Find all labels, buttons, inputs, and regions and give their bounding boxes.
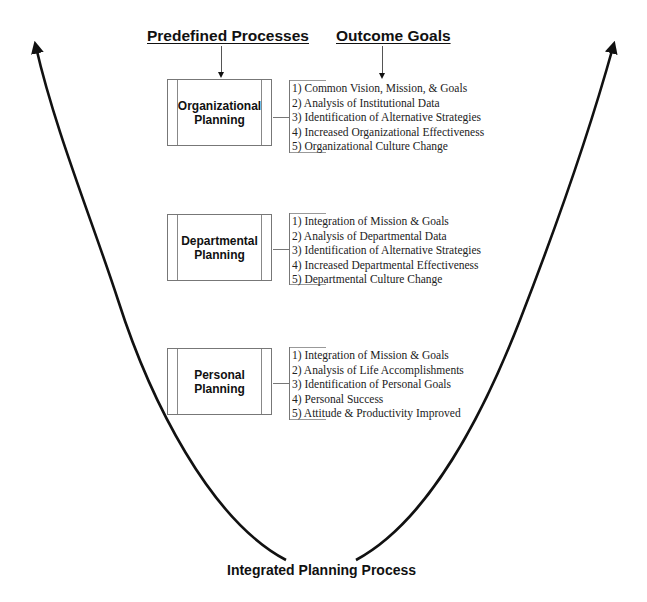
box-inner-line (177, 80, 178, 145)
connector-line (273, 117, 289, 118)
goal-item: 3) Identification of Alternative Strateg… (292, 243, 481, 258)
down-arrow-icon (218, 72, 224, 78)
header-predefined-processes: Predefined Processes (147, 27, 309, 45)
down-arrow-icon (379, 73, 385, 79)
goal-item: 4) Increased Departmental Effectiveness (292, 258, 481, 273)
connector-line (273, 383, 289, 384)
goal-item: 5) Attitude & Productivity Improved (292, 406, 464, 421)
process-box-personal: Personal Planning (167, 348, 272, 415)
process-label: Personal Planning (194, 368, 245, 396)
process-label: Departmental Planning (181, 234, 258, 262)
process-box-departmental: Departmental Planning (167, 214, 272, 281)
box-inner-line (177, 215, 178, 280)
goal-item: 2) Analysis of Departmental Data (292, 229, 481, 244)
goals-arrow-line (382, 46, 383, 74)
goal-item: 1) Common Vision, Mission, & Goals (292, 81, 484, 96)
process-label: Organizational Planning (178, 99, 261, 127)
goal-item: 1) Integration of Mission & Goals (292, 214, 481, 229)
goal-item: 5) Organizational Culture Change (292, 139, 484, 154)
goal-item: 3) Identification of Personal Goals (292, 377, 464, 392)
goal-item: 2) Analysis of Life Accomplishments (292, 363, 464, 378)
connector-line (273, 249, 289, 250)
header-outcome-goals: Outcome Goals (336, 27, 451, 45)
goal-list-departmental: 1) Integration of Mission & Goals 2) Ana… (292, 214, 481, 287)
process-box-organizational: Organizational Planning (167, 79, 272, 146)
box-inner-line (261, 349, 262, 414)
goal-item: 1) Integration of Mission & Goals (292, 348, 464, 363)
diagram-title: Integrated Planning Process (227, 562, 416, 578)
goal-item: 5) Departmental Culture Change (292, 272, 481, 287)
goal-item: 3) Identification of Alternative Strateg… (292, 110, 484, 125)
goal-item: 2) Analysis of Institutional Data (292, 96, 484, 111)
processes-arrow-line (221, 46, 222, 73)
box-inner-line (261, 215, 262, 280)
goal-item: 4) Personal Success (292, 392, 464, 407)
box-inner-line (177, 349, 178, 414)
box-inner-line (261, 80, 262, 145)
goal-list-organizational: 1) Common Vision, Mission, & Goals 2) An… (292, 81, 484, 154)
integrated-planning-diagram: Predefined Processes Outcome Goals Organ… (0, 0, 647, 602)
goal-list-personal: 1) Integration of Mission & Goals 2) Ana… (292, 348, 464, 421)
goal-item: 4) Increased Organizational Effectivenes… (292, 125, 484, 140)
